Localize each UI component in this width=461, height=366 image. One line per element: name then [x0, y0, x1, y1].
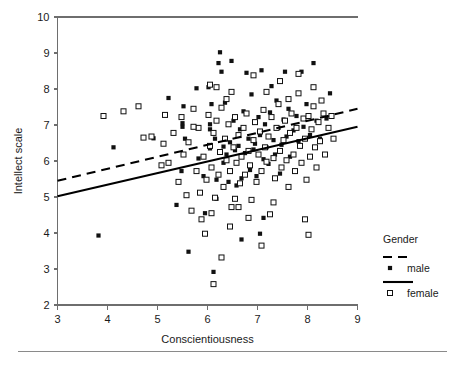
- data-point-female: [208, 82, 213, 87]
- data-point-female: [298, 143, 303, 148]
- data-point-female: [294, 125, 299, 130]
- data-point-female: [246, 215, 251, 220]
- data-point-female: [296, 71, 301, 76]
- x-tick-label: 4: [104, 313, 110, 325]
- legend-marker-female: [388, 291, 393, 296]
- y-tick-label: 3: [43, 263, 49, 275]
- data-point-female: [253, 120, 258, 125]
- x-tick-label: 8: [304, 313, 310, 325]
- data-point-male: [213, 137, 217, 141]
- y-tick-label: 9: [43, 47, 49, 59]
- data-point-male: [219, 70, 223, 74]
- figure-container: 23456789103456789ConscientiousnessIntell…: [0, 0, 461, 366]
- legend-label-male: male: [407, 262, 430, 274]
- data-point-female: [243, 172, 248, 177]
- data-point-female: [323, 152, 328, 157]
- data-point-female: [279, 165, 284, 170]
- data-point-male: [294, 114, 298, 118]
- data-point-female: [316, 120, 321, 125]
- x-tick-label: 3: [54, 313, 60, 325]
- data-point-male: [221, 145, 225, 149]
- data-point-male: [211, 270, 215, 274]
- data-point-female: [278, 148, 283, 153]
- data-point-male: [96, 233, 100, 237]
- data-point-female: [271, 156, 276, 161]
- data-point-female: [121, 109, 126, 114]
- data-point-female: [166, 160, 171, 165]
- data-point-male: [239, 237, 243, 241]
- data-point-female: [306, 114, 311, 119]
- data-point-female: [299, 160, 304, 165]
- data-point-female: [309, 127, 314, 132]
- data-point-male: [271, 138, 275, 142]
- data-point-female: [264, 159, 269, 164]
- data-point-female: [199, 217, 204, 222]
- data-point-male: [301, 125, 305, 129]
- data-point-male: [256, 115, 260, 119]
- data-point-female: [249, 197, 254, 202]
- data-point-male: [286, 107, 290, 111]
- data-point-female: [211, 282, 216, 287]
- data-point-female: [229, 205, 234, 210]
- data-point-female: [319, 98, 324, 103]
- data-point-male: [249, 92, 253, 96]
- data-point-male: [328, 91, 332, 95]
- data-point-female: [278, 79, 283, 84]
- data-point-female: [303, 217, 308, 222]
- data-point-female: [228, 224, 233, 229]
- data-point-female: [296, 91, 301, 96]
- data-point-female: [206, 112, 211, 117]
- data-point-female: [276, 102, 281, 107]
- y-tick-label: 5: [43, 191, 49, 203]
- data-point-male: [259, 68, 263, 72]
- data-point-female: [314, 165, 319, 170]
- data-point-female: [204, 177, 209, 182]
- data-point-female: [273, 176, 278, 181]
- data-point-male: [209, 102, 213, 106]
- y-tick-label: 2: [43, 299, 49, 311]
- data-point-female: [191, 106, 196, 111]
- data-point-female: [288, 130, 293, 135]
- data-point-male: [254, 174, 258, 178]
- data-point-male: [180, 121, 184, 125]
- x-axis-title: Conscientiousness: [161, 333, 254, 345]
- data-point-male: [304, 102, 308, 106]
- data-point-male: [203, 211, 207, 215]
- data-point-male: [263, 122, 267, 126]
- data-point-female: [216, 172, 221, 177]
- data-point-male: [166, 96, 170, 100]
- data-point-female: [198, 190, 203, 195]
- data-point-female: [203, 231, 208, 236]
- data-point-female: [254, 179, 259, 184]
- data-point-male: [268, 110, 272, 114]
- data-point-female: [286, 184, 291, 189]
- data-point-male: [244, 71, 248, 75]
- x-tick-label: 6: [204, 313, 210, 325]
- data-point-female: [224, 97, 229, 102]
- data-point-female: [149, 134, 154, 139]
- x-tick-label: 7: [254, 313, 260, 325]
- data-point-female: [256, 152, 261, 157]
- data-point-female: [233, 115, 238, 120]
- data-point-female: [286, 97, 291, 102]
- data-point-male: [174, 203, 178, 207]
- legend-title: Gender: [383, 233, 419, 245]
- data-point-female: [209, 211, 214, 216]
- data-point-female: [219, 105, 224, 110]
- data-point-female: [251, 73, 256, 78]
- data-point-female: [236, 205, 241, 210]
- data-point-female: [218, 150, 223, 155]
- data-point-male: [261, 216, 265, 220]
- data-point-male: [228, 140, 232, 144]
- x-tick-label: 9: [354, 313, 360, 325]
- data-point-female: [194, 169, 199, 174]
- data-points-group: [96, 50, 336, 286]
- data-point-female: [259, 243, 264, 248]
- data-point-female: [304, 177, 309, 182]
- data-point-female: [229, 89, 234, 94]
- data-point-female: [209, 165, 214, 170]
- data-point-female: [293, 169, 298, 174]
- data-point-male: [194, 86, 198, 90]
- data-point-female: [176, 179, 181, 184]
- data-point-female: [259, 169, 264, 174]
